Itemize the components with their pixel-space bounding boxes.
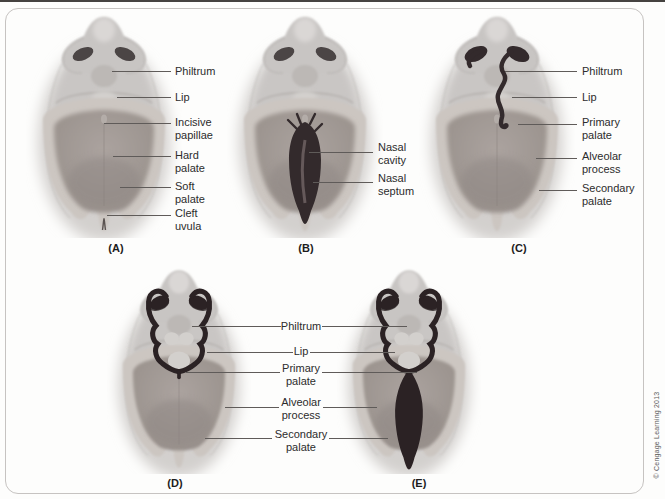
anatomy-label: Incisive papillae — [175, 116, 219, 142]
leader-line — [112, 71, 171, 72]
figure-e-bilateral-cleft-lip-and-palate — [337, 264, 481, 478]
anatomy-label: Lip — [582, 91, 626, 104]
diagram-root: (A) (B) (C) (D) (E) © Cengage Learning 2… — [0, 0, 665, 499]
leader-line — [322, 372, 417, 373]
anatomy-label: Philtrum — [582, 65, 626, 78]
anatomy-label: Primary palate — [582, 116, 626, 142]
leader-line — [205, 438, 272, 439]
anatomy-label: Alveolar process — [271, 396, 331, 422]
anatomy-label: Lip — [175, 91, 219, 104]
panel-letter-e: (E) — [399, 477, 439, 489]
panel-letter-c: (C) — [499, 242, 539, 254]
anatomy-label: Nasal septum — [378, 172, 422, 198]
anatomy-label: Lip — [271, 345, 331, 358]
panel-letter-d: (D) — [155, 477, 195, 489]
leader-line — [186, 372, 280, 373]
leader-line — [192, 326, 281, 327]
anatomy-label: Primary palate — [271, 362, 331, 388]
panel-letter-a: (A) — [96, 242, 136, 254]
leader-line — [512, 97, 577, 98]
figure-d-bilateral-cleft-lip — [107, 264, 251, 478]
leader-line — [539, 190, 577, 191]
top-rule — [0, 0, 665, 2]
leader-line — [104, 123, 171, 124]
leader-line — [117, 97, 171, 98]
figure-b-cleft-secondary-palate — [227, 10, 383, 242]
anatomy-label: Alveolar process — [582, 150, 626, 176]
leader-line — [329, 438, 388, 439]
anatomy-label: Hard palate — [175, 149, 219, 175]
leader-line — [107, 215, 171, 216]
leader-line — [120, 187, 171, 188]
anatomy-label: Soft palate — [175, 180, 219, 206]
leader-line — [309, 152, 373, 153]
anatomy-label: Secondary palate — [582, 182, 626, 208]
panel-letter-b: (B) — [286, 242, 326, 254]
leader-line — [313, 182, 373, 183]
leader-line — [113, 156, 171, 157]
leader-line — [322, 326, 407, 327]
anatomy-label: Philtrum — [271, 320, 331, 333]
anatomy-label: Cleft uvula — [175, 207, 219, 233]
anatomy-label: Nasal cavity — [378, 141, 422, 167]
copyright-credit: © Cengage Learning 2013 — [653, 387, 663, 483]
anatomy-label: Philtrum — [175, 65, 219, 78]
leader-line — [518, 124, 577, 125]
leader-line — [536, 158, 577, 159]
figure-a-cleft-uvula — [26, 10, 182, 242]
leader-line — [505, 71, 577, 72]
leader-line — [323, 407, 377, 408]
anatomy-label: Secondary palate — [271, 428, 331, 454]
figure-c-unilateral-cleft-lip — [419, 10, 575, 242]
